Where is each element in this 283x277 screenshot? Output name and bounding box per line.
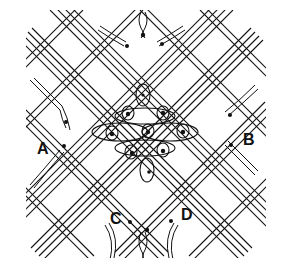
label-c: C: [110, 210, 122, 228]
label-a: A: [37, 140, 49, 158]
lace-diagram: [0, 0, 283, 277]
label-d: D: [181, 206, 193, 224]
pin-dots: [62, 33, 233, 232]
label-b: B: [243, 131, 255, 149]
